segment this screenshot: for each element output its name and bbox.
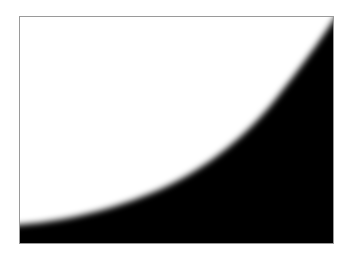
image-frame xyxy=(19,16,334,244)
image-canvas xyxy=(0,0,342,260)
gradient-curve-graphic xyxy=(20,17,333,243)
